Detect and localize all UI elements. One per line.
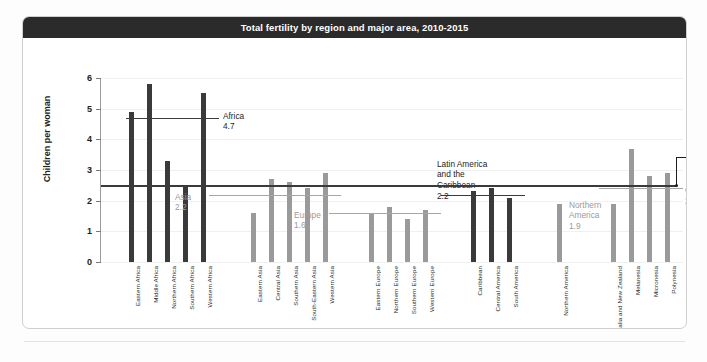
region-average-line [101, 185, 677, 186]
y-tick-label: 6 [87, 73, 92, 83]
gridline [101, 170, 683, 171]
x-axis-category-label: Central Asia [274, 266, 281, 301]
y-tick-mark [96, 231, 101, 232]
y-tick-label: 4 [87, 134, 92, 144]
x-axis-category-label: Australia and New Zealand [616, 266, 623, 329]
region-average-line [441, 195, 525, 196]
bar[interactable] [269, 179, 274, 262]
region-average-line [209, 195, 341, 196]
bar[interactable] [387, 207, 392, 262]
x-axis-category-label: Middle Africa [152, 266, 159, 303]
region-average-label: 2.2 [437, 191, 449, 202]
region-average-label: Europe 1.6 [294, 210, 321, 231]
bar[interactable] [611, 204, 616, 262]
y-tick-mark [96, 262, 101, 263]
world-callout-pointer [676, 157, 687, 186]
bar[interactable] [147, 84, 152, 262]
x-axis-category-label: Melanesia [634, 266, 641, 295]
y-tick-mark [96, 78, 101, 79]
x-axis-category-label: Northern America [562, 266, 569, 316]
x-axis-category-label: Western Asia [328, 266, 335, 304]
region-average-label: Northern America 1.9 [569, 200, 601, 232]
y-tick-label: 3 [87, 165, 92, 175]
chart-title: Total fertility by region and major area… [241, 22, 469, 33]
y-tick-label: 1 [87, 226, 92, 236]
x-axis-category-label: Southern Europe [410, 266, 417, 314]
plot-area: Children per woman 0123456Eastern Africa… [23, 38, 686, 328]
region-average-label: Asia 2.2 [175, 192, 191, 213]
x-axis-category-label: Northern Europe [392, 266, 399, 313]
gridline [101, 109, 683, 110]
x-axis-category-label: Eastern Europe [374, 266, 381, 310]
bar[interactable] [165, 161, 170, 262]
chart-title-bar: Total fertility by region and major area… [23, 17, 686, 38]
y-tick-mark [96, 201, 101, 202]
x-axis-category-label: Northern Africa [170, 266, 177, 309]
x-axis-category-label: Western Africa [206, 266, 213, 308]
region-average-line [599, 188, 683, 189]
bar[interactable] [251, 213, 256, 262]
x-axis-category-label: Central America [494, 266, 501, 312]
page-root: Total fertility by region and major area… [0, 0, 707, 362]
y-tick-label: 5 [87, 104, 92, 114]
axis-area: 0123456Eastern AfricaMiddle AfricaNorthe… [101, 78, 683, 262]
x-axis-category-label: Southern Asia [292, 266, 299, 306]
bar[interactable] [629, 149, 634, 262]
y-tick-mark [96, 170, 101, 171]
x-axis-category-label: Polynesia [670, 266, 677, 294]
region-average-line [329, 213, 441, 214]
chart-card: Total fertility by region and major area… [22, 16, 687, 329]
y-tick-label: 2 [87, 196, 92, 206]
bar[interactable] [405, 219, 410, 262]
x-axis-category-label: Eastern Asia [256, 266, 263, 302]
region-average-label: Africa 4.7 [223, 111, 244, 132]
bar[interactable] [507, 198, 512, 262]
gridline [101, 139, 683, 140]
bar[interactable] [471, 191, 476, 262]
gridline [101, 78, 683, 79]
x-axis-category-label: Eastern Africa [134, 266, 141, 306]
y-tick-mark [96, 109, 101, 110]
region-average-label: Oceania 2.4 [685, 185, 687, 206]
bar[interactable] [423, 210, 428, 262]
y-axis-title: Children per woman [42, 69, 52, 209]
y-tick-mark [96, 139, 101, 140]
x-axis-category-label: Caribbean [476, 266, 483, 295]
bar[interactable] [557, 204, 562, 262]
gridline [101, 231, 683, 232]
x-axis-category-label: South America [512, 266, 519, 308]
y-tick-label: 0 [87, 257, 92, 267]
footer-divider [24, 341, 685, 342]
region-average-line [126, 118, 219, 119]
x-axis-category-label: Micronesia [652, 266, 659, 297]
x-axis-category-label: Western Europe [428, 266, 435, 312]
x-axis-category-label: South-Eastern Asia [310, 266, 317, 321]
gridline [101, 262, 683, 263]
bar[interactable] [129, 112, 134, 262]
bar[interactable] [489, 188, 494, 262]
x-axis-category-label: Southern Africa [188, 266, 195, 310]
bar[interactable] [369, 213, 374, 262]
